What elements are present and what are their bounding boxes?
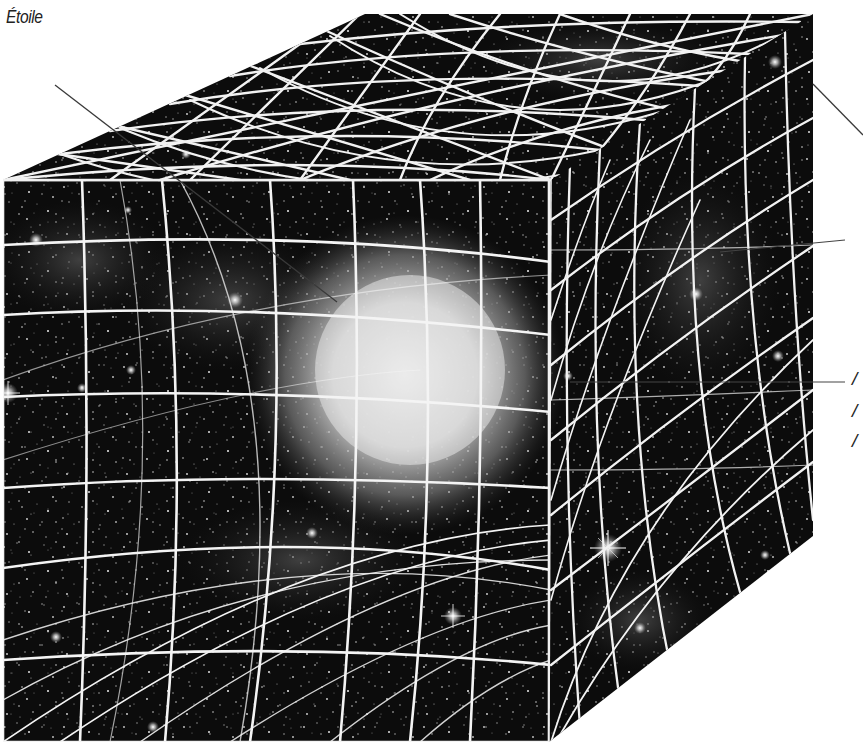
right-label-fragment-3: / <box>852 430 857 452</box>
right-top-leader-line <box>813 84 863 135</box>
curved-spacetime-cube <box>0 0 863 754</box>
star-label: Étoile <box>6 6 43 28</box>
right-label-fragment-2: / <box>852 400 857 422</box>
right-label-fragment-1: / <box>852 368 857 390</box>
